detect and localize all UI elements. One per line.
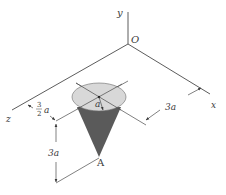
y-axis-label: y bbox=[116, 7, 123, 18]
cone-diagram: y O x z a A 3a 3 2 a 3a bbox=[0, 0, 226, 195]
diagram-svg: y O x z a A 3a 3 2 a 3a bbox=[0, 0, 226, 195]
x-axis bbox=[128, 44, 210, 94]
apex-z-line bbox=[56, 158, 99, 183]
z-offset-numerator: 3 bbox=[37, 101, 41, 109]
x-offset-label: 3a bbox=[165, 102, 176, 112]
z-axis-label: z bbox=[5, 114, 11, 124]
height-label: 3a bbox=[48, 148, 59, 158]
origin-label: O bbox=[131, 34, 139, 45]
cone bbox=[72, 83, 126, 157]
dimension-z-3-2a bbox=[28, 105, 55, 120]
radius-label: a bbox=[95, 99, 100, 109]
x-axis-label: x bbox=[211, 100, 216, 110]
z-offset-denominator: 2 bbox=[37, 110, 41, 118]
cone-body bbox=[77, 107, 121, 157]
z-offset-variable: a bbox=[44, 105, 49, 115]
apex-label: A bbox=[96, 157, 105, 168]
